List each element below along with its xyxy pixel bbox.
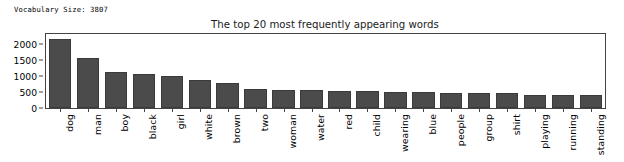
x-axis-tick-label: white	[203, 114, 214, 140]
y-axis-tick-label: 1000	[14, 70, 37, 81]
bar	[161, 76, 183, 108]
x-axis-tick-label: child	[371, 114, 382, 137]
chart-title: The top 20 most frequently appearing wor…	[45, 19, 605, 30]
vocabulary-size-output: Vocabulary Size: 3807	[14, 5, 108, 15]
x-axis: dogmanboyblackgirlwhitebrowntwowomanwate…	[46, 109, 605, 162]
bar	[524, 95, 546, 108]
y-axis-tick-mark	[39, 75, 43, 76]
x-axis-tick-label: wearing	[399, 114, 410, 152]
bar	[244, 89, 266, 108]
x-axis-tick-mark	[395, 109, 396, 112]
x-axis-tick-label: black	[147, 114, 158, 139]
bar	[328, 91, 350, 108]
x-axis-tick-mark	[284, 109, 285, 112]
x-axis-tick-label: red	[343, 114, 354, 130]
x-axis-tick-mark	[200, 109, 201, 112]
x-axis-tick-label: girl	[175, 114, 186, 129]
y-axis-tick-label: 0	[31, 103, 37, 114]
x-axis-tick-label: dog	[64, 114, 75, 132]
x-axis-tick-label: man	[92, 114, 103, 135]
y-axis-tick-mark	[39, 59, 43, 60]
x-axis-tick-label: two	[259, 114, 270, 131]
y-axis-tick-mark	[39, 43, 43, 44]
x-axis-tick-label: water	[315, 114, 326, 141]
bar	[77, 58, 99, 108]
bar	[356, 91, 378, 108]
x-axis-tick-label: brown	[231, 114, 242, 143]
x-axis-tick-mark	[144, 109, 145, 112]
bar	[105, 72, 127, 108]
y-axis-tick-mark	[39, 91, 43, 92]
x-axis-tick-mark	[479, 109, 480, 112]
x-axis-tick-label: group	[483, 114, 494, 142]
y-axis: 0500100015002000	[0, 33, 43, 109]
x-axis-tick-mark	[256, 109, 257, 112]
bar	[468, 93, 490, 108]
x-axis-tick-label: shirt	[511, 114, 522, 135]
x-axis-tick-mark	[451, 109, 452, 112]
x-axis-tick-mark	[228, 109, 229, 112]
y-axis-tick-label: 2000	[14, 38, 37, 49]
bar-series	[46, 34, 605, 108]
x-axis-tick-mark	[423, 109, 424, 112]
y-axis-tick-label: 1500	[14, 54, 37, 65]
bar	[580, 95, 602, 108]
x-axis-tick-mark	[172, 109, 173, 112]
matplotlib-figure: Vocabulary Size: 3807 The top 20 most fr…	[0, 0, 624, 162]
x-axis-tick-mark	[339, 109, 340, 112]
x-axis-tick-mark	[591, 109, 592, 112]
bar	[552, 95, 574, 108]
bar	[440, 93, 462, 108]
x-axis-tick-label: boy	[119, 114, 130, 131]
x-axis-tick-mark	[367, 109, 368, 112]
x-axis-tick-label: running	[567, 114, 578, 151]
bar	[300, 90, 322, 108]
y-axis-tick-mark	[39, 108, 43, 109]
bar	[133, 74, 155, 108]
x-axis-tick-mark	[535, 109, 536, 112]
bar	[412, 92, 434, 108]
x-axis-tick-label: blue	[427, 114, 438, 135]
bar	[272, 90, 294, 108]
x-axis-tick-mark	[60, 109, 61, 112]
x-axis-tick-mark	[88, 109, 89, 112]
x-axis-tick-label: people	[455, 114, 466, 146]
x-axis-tick-mark	[563, 109, 564, 112]
bar	[384, 92, 406, 108]
x-axis-tick-label: standing	[595, 114, 606, 155]
x-axis-tick-mark	[312, 109, 313, 112]
x-axis-tick-label: woman	[287, 114, 298, 148]
y-axis-tick-label: 500	[19, 86, 37, 97]
x-axis-tick-mark	[116, 109, 117, 112]
x-axis-tick-label: playing	[539, 114, 550, 149]
bar	[496, 93, 518, 108]
bar	[216, 83, 238, 108]
bar	[189, 80, 211, 108]
x-axis-tick-mark	[507, 109, 508, 112]
bar	[49, 39, 71, 108]
